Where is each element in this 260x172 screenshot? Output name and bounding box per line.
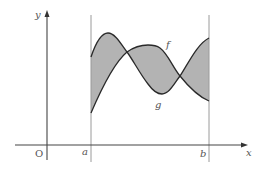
bound-label-a: a bbox=[82, 146, 88, 157]
origin-label: O bbox=[35, 148, 43, 159]
y-axis-label: y bbox=[34, 9, 41, 20]
diagram-canvas: y x O a b f g bbox=[0, 0, 260, 172]
area-between-curves-figure: y x O a b f g bbox=[0, 0, 260, 172]
bound-label-b: b bbox=[200, 148, 206, 159]
x-axis-label: x bbox=[246, 147, 252, 158]
curve-label-f: f bbox=[165, 39, 172, 50]
y-axis-arrow-icon bbox=[45, 10, 50, 17]
curve-label-g: g bbox=[155, 99, 161, 110]
